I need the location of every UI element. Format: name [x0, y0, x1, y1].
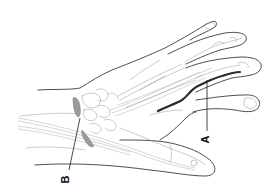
- hand-outline: [20, 21, 261, 176]
- label-b: B: [60, 176, 71, 184]
- hand-anatomy-diagram: [0, 0, 280, 196]
- carpal-bones: [82, 89, 118, 134]
- highlighted-nerve: [158, 72, 240, 111]
- label-a: A: [200, 136, 211, 144]
- tendons: [18, 68, 212, 170]
- leader-line-b: [69, 118, 80, 170]
- wrist-ligament: [73, 97, 94, 146]
